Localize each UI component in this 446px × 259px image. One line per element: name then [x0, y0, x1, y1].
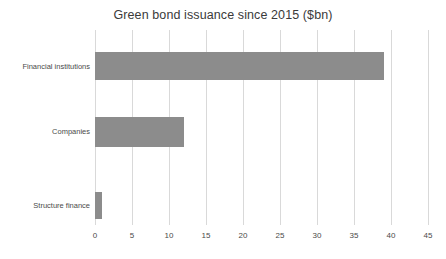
bar-companies: [95, 117, 184, 147]
xtick-label-0: 0: [83, 231, 107, 240]
xtick-label-20: 20: [231, 231, 255, 240]
category-label-financial-institutions: Financial institutions: [0, 62, 90, 71]
plot-area: [95, 30, 428, 225]
bar-financial-institutions: [95, 52, 384, 80]
bar-chart: Green bond issuance since 2015 ($bn) Fin…: [0, 0, 446, 259]
xtick-label-30: 30: [305, 231, 329, 240]
xtick-label-15: 15: [194, 231, 218, 240]
bar-structure-finance: [95, 192, 102, 219]
xtick-label-35: 35: [342, 231, 366, 240]
xtick-label-5: 5: [120, 231, 144, 240]
xtick-label-10: 10: [157, 231, 181, 240]
gridline-40: [391, 30, 392, 225]
xtick-label-40: 40: [379, 231, 403, 240]
xtick-label-45: 45: [416, 231, 440, 240]
category-label-companies: Companies: [0, 127, 90, 136]
gridline-45: [428, 30, 429, 225]
category-label-structure-finance: Structure finance: [0, 201, 90, 210]
chart-title: Green bond issuance since 2015 ($bn): [0, 8, 446, 22]
xtick-label-25: 25: [268, 231, 292, 240]
